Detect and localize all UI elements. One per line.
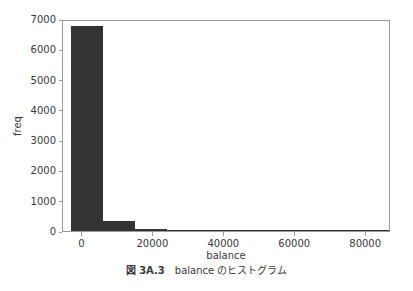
y-tick-mark [59, 201, 63, 202]
x-tick-mark [294, 232, 295, 236]
figure-container: 01000200030004000500060007000 0200004000… [0, 0, 413, 291]
x-axis-label-text: balance [206, 250, 245, 261]
y-tick-label: 6000 [31, 43, 56, 57]
x-tick-label: 0 [42, 237, 122, 251]
y-axis-label-text: freq [11, 101, 25, 151]
y-tick-label: 7000 [31, 13, 56, 27]
plot-area [62, 20, 390, 232]
y-tick-mark [59, 80, 63, 81]
histogram-bar [71, 26, 103, 231]
histogram-bar [198, 230, 230, 231]
x-tick-mark [81, 232, 82, 236]
histogram-bar [103, 221, 135, 231]
x-tick-mark [365, 232, 366, 236]
x-tick-label: 60000 [254, 237, 334, 251]
y-tick-mark [59, 171, 63, 172]
figure-caption: 図 3A.3balance のヒストグラム [0, 264, 413, 278]
x-axis-label: balance [62, 250, 390, 262]
histogram-bar [326, 230, 358, 231]
y-tick-mark [59, 50, 63, 51]
x-tick-label: 40000 [183, 237, 263, 251]
histogram-bars [63, 21, 389, 231]
x-tick-mark [223, 232, 224, 236]
x-tick-label: 20000 [112, 237, 192, 251]
histogram-bar [262, 230, 294, 231]
histogram-bar [358, 230, 390, 231]
y-tick-label: 2000 [31, 164, 56, 178]
y-tick-label: 5000 [31, 74, 56, 88]
y-tick-label: 4000 [31, 104, 56, 118]
figure-caption-text: balance のヒストグラム [175, 265, 288, 276]
y-tick-mark [59, 20, 63, 21]
histogram-bar [230, 230, 262, 231]
y-tick-label: 3000 [31, 134, 56, 148]
y-tick-label: 1000 [31, 195, 56, 209]
histogram-bar [167, 230, 199, 231]
y-tick-mark [59, 232, 63, 233]
figure-caption-number: 図 3A.3 [126, 265, 165, 276]
histogram-bar [294, 230, 326, 231]
y-tick-mark [59, 110, 63, 111]
y-axis-label: freq [11, 101, 25, 151]
x-tick-mark [152, 232, 153, 236]
histogram-bar [135, 229, 167, 231]
x-tick-label: 80000 [325, 237, 405, 251]
y-tick-mark [59, 141, 63, 142]
